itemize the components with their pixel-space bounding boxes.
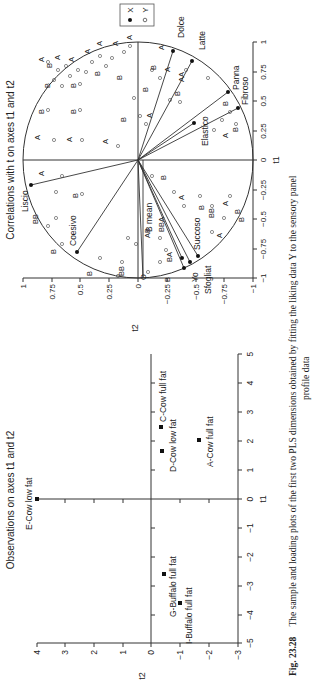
svg-text:B: B bbox=[231, 127, 240, 132]
point-i-buffalo-full-fat bbox=[178, 601, 182, 605]
svg-text:A: A bbox=[221, 133, 230, 138]
label-succoso: Succoso bbox=[192, 217, 202, 250]
svg-text:A: A bbox=[95, 41, 104, 46]
svg-text:0.25: 0.25 bbox=[259, 123, 268, 139]
figure-canvas: Correlations with t on axes t1 and t2 1 … bbox=[0, 0, 312, 682]
legend-x-marker bbox=[128, 18, 132, 22]
legend-y-label: Y bbox=[141, 7, 150, 13]
t1-axis-label: t1 bbox=[271, 156, 281, 164]
svg-text:A: A bbox=[83, 49, 92, 54]
svg-text:O: O bbox=[139, 274, 148, 280]
svg-text:A: A bbox=[177, 195, 186, 200]
svg-text:0.5: 0.5 bbox=[76, 283, 85, 295]
svg-text:B: B bbox=[45, 63, 54, 68]
svg-text:B: B bbox=[85, 271, 94, 276]
svg-text:−0.5: −0.5 bbox=[259, 211, 268, 227]
svg-text:−0.75: −0.75 bbox=[220, 283, 229, 304]
svg-text:0.75: 0.75 bbox=[48, 283, 57, 299]
t2-axis-label: t2 bbox=[130, 324, 140, 332]
point-a-cow-full-fat bbox=[197, 438, 201, 442]
svg-text:−2: −2 bbox=[245, 552, 255, 562]
label-fibroso: Fibroso bbox=[240, 76, 250, 105]
svg-text:A: A bbox=[111, 41, 120, 46]
svg-text:B: B bbox=[93, 71, 102, 76]
t2-ticks: 1 0.75 0.5 0.25 0 −0.25 −0.5 −0.75 −1 bbox=[19, 278, 258, 304]
t1-ticks: 1 0.75 0.5 0.25 0 −0.25 −0.5 −0.75 −1 bbox=[253, 39, 268, 282]
svg-text:B: B bbox=[159, 175, 168, 180]
point-d-cow-low-fat bbox=[160, 449, 164, 453]
label-elastico: Elastico bbox=[200, 116, 210, 146]
obs-t1-axis-label: t1 bbox=[258, 495, 268, 503]
caption-text: The sample and loading plots of the firs… bbox=[288, 175, 298, 626]
svg-text:1: 1 bbox=[245, 467, 255, 472]
svg-text:0: 0 bbox=[146, 650, 156, 655]
svg-text:B: B bbox=[69, 83, 78, 88]
svg-text:B: B bbox=[37, 109, 46, 114]
svg-text:BB: BB bbox=[207, 208, 216, 218]
svg-text:0: 0 bbox=[259, 157, 268, 162]
observations-title: Observations on axes t1 and t2 bbox=[5, 430, 16, 569]
figure-caption: Fig. 23.28 The sample and loading plots … bbox=[288, 175, 311, 676]
svg-text:BA: BA bbox=[165, 252, 174, 262]
svg-text:−1: −1 bbox=[175, 650, 185, 660]
svg-text:B: B bbox=[197, 205, 206, 210]
svg-text:−1: −1 bbox=[245, 523, 255, 533]
label-yo: Yo bbox=[190, 272, 200, 282]
svg-text:3: 3 bbox=[60, 650, 70, 655]
obs-t2-ticks: 4 3 2 1 0 −1 −2 −3 bbox=[32, 499, 243, 660]
svg-text:Fig. 23.28 The sample an: Fig. 23.28 The sample and loading plots … bbox=[288, 175, 298, 676]
point-e-cow-low-fat bbox=[35, 497, 39, 501]
svg-text:A: A bbox=[65, 137, 74, 142]
svg-text:0: 0 bbox=[245, 496, 255, 501]
label-a-cow-full-fat: A-Cow full fat bbox=[205, 416, 215, 467]
svg-text:−3: −3 bbox=[245, 581, 255, 591]
svg-text:AA: AA bbox=[177, 72, 186, 82]
svg-text:0.25: 0.25 bbox=[105, 283, 114, 299]
svg-text:A: A bbox=[33, 135, 42, 140]
label-i-buffalo-full-fat: I-Buffalo full fat bbox=[184, 587, 194, 644]
svg-text:B: B bbox=[43, 83, 52, 88]
svg-text:−3: −3 bbox=[233, 650, 243, 660]
obs-t2-axis-label: t2 bbox=[137, 672, 147, 680]
caption-line2: profile data bbox=[301, 356, 311, 400]
point-g-buffalo-full-fat bbox=[162, 572, 166, 576]
svg-text:4: 4 bbox=[32, 650, 42, 655]
legend-x-label: X bbox=[126, 7, 135, 13]
svg-text:4: 4 bbox=[245, 380, 255, 385]
svg-text:B: B bbox=[233, 209, 242, 214]
svg-text:−1: −1 bbox=[259, 273, 268, 283]
label-c-cow-full-fat: C-Cow full fat bbox=[158, 370, 168, 422]
svg-text:−0.75: −0.75 bbox=[259, 238, 268, 259]
svg-text:B: B bbox=[173, 91, 182, 96]
svg-text:A: A bbox=[53, 55, 62, 60]
svg-text:A: A bbox=[157, 45, 166, 50]
svg-text:A: A bbox=[221, 201, 230, 206]
svg-text:BB: BB bbox=[31, 214, 40, 224]
label-e-cow-low-fat: E-Cow low fat bbox=[24, 477, 34, 530]
svg-text:B: B bbox=[49, 249, 58, 254]
svg-text:B: B bbox=[115, 75, 124, 80]
svg-text:−2: −2 bbox=[204, 650, 214, 660]
svg-text:−0.25: −0.25 bbox=[259, 179, 268, 200]
svg-text:2: 2 bbox=[245, 438, 255, 443]
svg-text:A: A bbox=[37, 171, 46, 176]
svg-text:A: A bbox=[101, 139, 110, 144]
label-g-buffalo-full-fat: G-Buffalo full fat bbox=[168, 556, 178, 617]
svg-text:A: A bbox=[37, 57, 46, 62]
svg-text:BBA: BBA bbox=[157, 217, 166, 232]
svg-text:A: A bbox=[145, 113, 154, 118]
observations-plot: Observations on axes t1 and t2 4 3 2 1 0… bbox=[5, 351, 268, 679]
label-coesivo: Coesivo bbox=[68, 215, 78, 246]
label-latte: Latte bbox=[197, 31, 207, 50]
svg-text:0.75: 0.75 bbox=[259, 64, 268, 80]
svg-text:−4: −4 bbox=[245, 610, 255, 620]
svg-text:AB: AB bbox=[143, 228, 152, 238]
label-sfogliat: Sfogliat bbox=[203, 265, 213, 294]
svg-text:BB: BB bbox=[117, 266, 126, 276]
svg-text:B: B bbox=[71, 193, 80, 198]
svg-text:−0.5: −0.5 bbox=[192, 283, 201, 299]
svg-text:0: 0 bbox=[134, 283, 143, 288]
legend: X Y bbox=[120, 4, 154, 26]
svg-text:B: B bbox=[237, 217, 246, 222]
svg-text:0.5: 0.5 bbox=[259, 95, 268, 107]
